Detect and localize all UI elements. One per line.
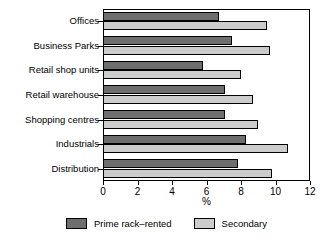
y-axis-tick-mark bbox=[98, 169, 104, 170]
legend-label: Secondary bbox=[222, 219, 267, 229]
legend-label: Prime rack–rented bbox=[94, 219, 172, 229]
y-axis-tick-mark bbox=[98, 144, 104, 145]
legend-item[interactable]: Prime rack–rented bbox=[66, 218, 172, 229]
bar-prime bbox=[103, 159, 238, 168]
y-axis-tick-label: Shopping centres bbox=[0, 115, 99, 125]
y-axis-tick-label: Retail warehouse bbox=[0, 90, 99, 100]
x-axis-tick-mark bbox=[241, 181, 242, 185]
bar-secondary bbox=[103, 169, 272, 178]
bar-secondary bbox=[103, 95, 253, 104]
bar-prime bbox=[103, 85, 225, 94]
bar-secondary bbox=[103, 46, 270, 55]
x-axis-tick-mark bbox=[138, 181, 139, 185]
bars-layer bbox=[103, 9, 310, 181]
y-axis-tick-label: Distribution bbox=[0, 164, 99, 174]
y-axis-tick-mark bbox=[98, 70, 104, 71]
bar-secondary bbox=[103, 70, 241, 79]
y-axis-tick-label: Business Parks bbox=[0, 41, 99, 51]
legend-item[interactable]: Secondary bbox=[194, 218, 267, 229]
y-axis-tick-label: Retail shop units bbox=[0, 65, 99, 75]
legend-swatch-secondary bbox=[194, 218, 215, 229]
y-axis-tick-label: Industrials bbox=[0, 139, 99, 149]
x-axis-tick-mark bbox=[276, 181, 277, 185]
x-axis-tick-mark bbox=[103, 181, 104, 185]
x-axis-tick-mark bbox=[172, 181, 173, 185]
legend-swatch-prime bbox=[66, 218, 87, 229]
chart-legend: Prime rack–rentedSecondary bbox=[0, 218, 333, 229]
bar-prime bbox=[103, 36, 232, 45]
bar-secondary bbox=[103, 144, 288, 153]
bar-prime bbox=[103, 135, 246, 144]
y-axis-category-labels: OfficesBusiness ParksRetail shop unitsRe… bbox=[0, 9, 99, 181]
bar-prime bbox=[103, 110, 225, 119]
y-axis-tick-mark bbox=[98, 46, 104, 47]
bar-prime bbox=[103, 12, 219, 21]
y-axis-tick-label: Offices bbox=[0, 16, 99, 26]
y-axis-tick-mark bbox=[98, 95, 104, 96]
y-axis-tick-mark bbox=[98, 21, 104, 22]
bar-secondary bbox=[103, 21, 267, 30]
bar-secondary bbox=[103, 120, 258, 129]
y-axis-tick-mark bbox=[98, 120, 104, 121]
x-axis-tick-mark bbox=[207, 181, 208, 185]
bar-chart: OfficesBusiness ParksRetail shop unitsRe… bbox=[0, 0, 333, 246]
bar-prime bbox=[103, 61, 203, 70]
x-axis-title: % bbox=[103, 196, 310, 207]
x-axis-tick-mark bbox=[310, 181, 311, 185]
